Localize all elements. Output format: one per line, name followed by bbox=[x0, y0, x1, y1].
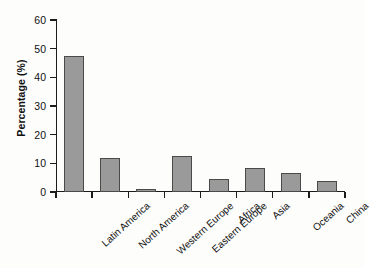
bar bbox=[317, 181, 337, 192]
bar bbox=[100, 158, 120, 192]
bar bbox=[209, 179, 229, 192]
x-axis-category-label: Oceania bbox=[310, 200, 345, 233]
x-axis-category-label: Asia bbox=[270, 200, 292, 221]
x-axis-tick bbox=[308, 192, 309, 198]
y-axis-tick-label: 20 bbox=[34, 129, 46, 141]
y-axis-tick-label: 0 bbox=[40, 186, 46, 198]
y-axis-tick-label: 60 bbox=[34, 14, 46, 26]
bar bbox=[245, 168, 265, 192]
y-axis-tick-label: 40 bbox=[34, 71, 46, 83]
bar bbox=[172, 156, 192, 192]
y-axis-title: Percentage (%) bbox=[14, 18, 28, 178]
y-axis-tick-label: 10 bbox=[34, 157, 46, 169]
x-axis-tick bbox=[236, 192, 237, 198]
bar bbox=[136, 189, 156, 192]
bar bbox=[64, 56, 84, 192]
x-axis-tick bbox=[55, 192, 56, 198]
y-axis-tick-label: 50 bbox=[34, 43, 46, 55]
y-axis-tick-label: 30 bbox=[34, 100, 46, 112]
bar bbox=[281, 173, 301, 192]
x-axis-tick bbox=[272, 192, 273, 198]
x-axis-tick bbox=[128, 192, 129, 198]
x-axis-tick bbox=[164, 192, 165, 198]
x-axis-category-label: China bbox=[344, 200, 370, 226]
x-axis-tick bbox=[344, 192, 345, 198]
x-axis-tick bbox=[91, 192, 92, 198]
plot-area bbox=[56, 20, 345, 192]
x-axis-tick bbox=[200, 192, 201, 198]
